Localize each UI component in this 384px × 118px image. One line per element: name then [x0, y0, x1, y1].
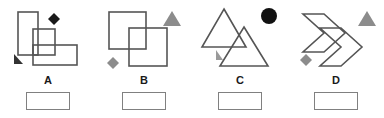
gray-triangle-marker: [163, 11, 181, 26]
figure-b-svg: [96, 0, 192, 74]
panel-a: A: [0, 0, 96, 118]
figure-d-svg: [288, 0, 384, 74]
black-circle-marker: [261, 8, 277, 24]
answer-input-c[interactable]: [218, 92, 262, 110]
gray-triangle-marker: [216, 50, 223, 60]
chevron-2: [320, 28, 362, 66]
shape-counting-exercise: A B: [0, 0, 384, 118]
chevron-1: [303, 14, 345, 52]
figure-a: [0, 0, 96, 74]
square-2: [129, 28, 167, 66]
rect-2: [33, 29, 55, 55]
gray-triangle-marker: [358, 11, 376, 26]
triangle-1: [202, 9, 246, 47]
panel-label-b: B: [96, 74, 192, 87]
panel-label-a: A: [0, 74, 96, 87]
answer-input-a[interactable]: [26, 92, 70, 110]
gray-diamond-marker: [300, 54, 312, 66]
figure-a-svg: [0, 0, 96, 74]
answer-input-b[interactable]: [122, 92, 166, 110]
gray-diamond-marker: [107, 57, 119, 69]
panel-label-c: C: [192, 74, 288, 87]
answer-input-d[interactable]: [314, 92, 358, 110]
panel-b: B: [96, 0, 192, 118]
figure-d: [288, 0, 384, 74]
panel-label-d: D: [288, 74, 384, 87]
figure-c-svg: [192, 0, 288, 74]
black-diamond-marker: [48, 13, 60, 25]
figure-c: [192, 0, 288, 74]
panel-d: D: [288, 0, 384, 118]
panel-c: C: [192, 0, 288, 118]
rect-1: [18, 12, 38, 55]
figure-b: [96, 0, 192, 74]
square-1: [109, 12, 146, 49]
